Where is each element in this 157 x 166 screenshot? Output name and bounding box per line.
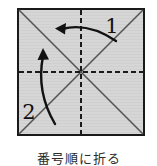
- fold-diagram-canvas: 1 2: [0, 0, 157, 166]
- fold-step-2-label: 2: [22, 100, 35, 124]
- figure-caption: 番号順に折る: [0, 151, 157, 166]
- fold-step-1-label: 1: [105, 14, 118, 38]
- origami-diagram-figure: 1 2 番号順に折る: [0, 0, 157, 166]
